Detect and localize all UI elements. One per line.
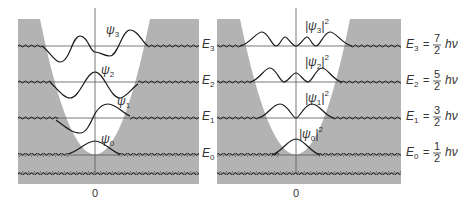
oscillator-figure: ψ3 ψ2 ψ1 ψ0 E3 E2 E1 E0 0 — [0, 0, 469, 206]
svg-text:hν: hν — [445, 109, 458, 123]
svg-text:E1: E1 — [406, 109, 419, 125]
svg-text:=: = — [423, 38, 429, 50]
svg-text:2: 2 — [434, 80, 440, 92]
left-panel: ψ3 ψ2 ψ1 ψ0 E3 E2 E1 E0 0 — [18, 8, 215, 199]
svg-text:2: 2 — [434, 44, 440, 56]
E2-label: E2 — [202, 73, 215, 89]
E3-label: E3 — [202, 37, 215, 53]
left-x-tick-zero: 0 — [92, 187, 98, 199]
right-x-tick-zero: 0 — [293, 187, 299, 199]
svg-text:7: 7 — [434, 32, 440, 44]
svg-text:=: = — [423, 146, 429, 158]
svg-text:hν: hν — [445, 73, 458, 87]
energy-eq-E2: E2 = 5 2 hν — [406, 68, 458, 92]
svg-text:E0: E0 — [406, 145, 419, 161]
svg-text:=: = — [423, 110, 429, 122]
E0-label: E0 — [202, 146, 215, 162]
svg-text:3: 3 — [434, 104, 440, 116]
energy-equations: E3 = 7 2 hν E2 = 5 2 hν E1 = 3 2 hν E0 =… — [406, 32, 458, 164]
svg-text:2: 2 — [434, 152, 440, 164]
svg-text:=: = — [423, 74, 429, 86]
svg-text:E3: E3 — [406, 37, 419, 53]
svg-text:E2: E2 — [406, 73, 419, 89]
right-panel: |ψ3|2 |ψ2|2 |ψ1|2 |ψ0|2 0 — [217, 8, 401, 199]
svg-text:1: 1 — [434, 140, 440, 152]
svg-text:5: 5 — [434, 68, 440, 80]
svg-text:hν: hν — [445, 145, 458, 159]
svg-text:hν: hν — [445, 37, 458, 51]
energy-eq-E3: E3 = 7 2 hν — [406, 32, 458, 56]
E1-label: E1 — [202, 109, 215, 125]
svg-text:2: 2 — [434, 116, 440, 128]
energy-eq-E0: E0 = 1 2 hν — [406, 140, 458, 164]
energy-eq-E1: E1 = 3 2 hν — [406, 104, 458, 128]
